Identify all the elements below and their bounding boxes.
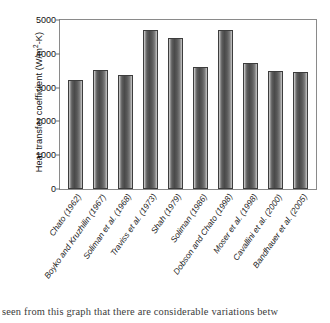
bar-item[interactable]: [143, 20, 159, 189]
y-axis-title: Heat transfer coefficient (W/m2-K): [32, 12, 44, 192]
bar-chart-figure: Heat transfer coefficient (W/m2-K) 01000…: [0, 0, 330, 323]
bar-item[interactable]: [268, 20, 284, 189]
bar[interactable]: [93, 70, 108, 189]
bar[interactable]: [118, 75, 133, 189]
body-caption: seen from this graph that there are cons…: [2, 306, 330, 317]
bar-highlight: [193, 20, 209, 22]
bar-highlight: [143, 20, 159, 22]
bar-item[interactable]: [68, 20, 84, 189]
bar-series: [60, 20, 316, 189]
bar-item[interactable]: [293, 20, 309, 189]
bar-highlight: [218, 20, 234, 22]
y-axis-title-superscript: 2: [32, 44, 39, 48]
bar[interactable]: [218, 30, 233, 189]
bar-highlight: [293, 20, 309, 22]
bar-highlight: [118, 20, 134, 22]
bar-highlight: [243, 20, 259, 22]
bar-item[interactable]: [193, 20, 209, 189]
bar[interactable]: [68, 80, 83, 189]
bar-item[interactable]: [93, 20, 109, 189]
bar-highlight: [168, 20, 184, 22]
bar[interactable]: [143, 30, 158, 189]
bar[interactable]: [268, 71, 283, 189]
bar-highlight: [93, 20, 109, 22]
bar-item[interactable]: [168, 20, 184, 189]
bar-item[interactable]: [243, 20, 259, 189]
plot-area: 010002000300040005000: [59, 19, 317, 190]
bar-highlight: [68, 20, 84, 22]
bar[interactable]: [293, 72, 308, 189]
bar[interactable]: [168, 38, 183, 189]
y-axis-title-suffix: -K): [34, 32, 44, 45]
bar[interactable]: [193, 67, 208, 189]
bar-item[interactable]: [218, 20, 234, 189]
bar[interactable]: [243, 63, 258, 189]
bar-highlight: [268, 20, 284, 22]
bar-item[interactable]: [118, 20, 134, 189]
